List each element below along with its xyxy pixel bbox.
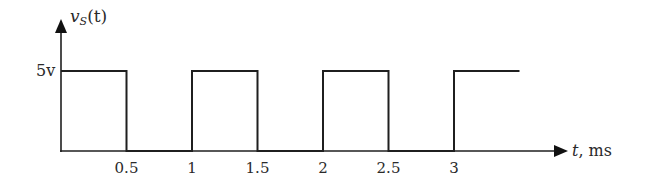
x-tick-label: 2 [318,159,328,177]
y-axis-label-var: v [70,6,80,26]
y-axis-label: vS(t) [70,6,107,28]
square-wave-figure: vS(t) 5v t, ms 0.511.522.53 [0,0,645,182]
high-level-label: 5v [36,61,55,80]
square-wave-signal [61,71,520,151]
x-tick-label: 2.5 [377,159,401,177]
x-axis-arrow-icon [554,145,568,157]
y-axis-label-arg: (t) [87,6,107,26]
x-tick-label: 0.5 [115,159,139,177]
x-tick-label: 3 [449,159,459,177]
x-tick-label: 1 [187,159,197,177]
x-axis-label-unit: , ms [578,141,612,160]
y-axis-arrow-icon [55,19,67,33]
x-axis-label: t, ms [572,141,612,160]
x-tick-label: 1.5 [246,159,270,177]
